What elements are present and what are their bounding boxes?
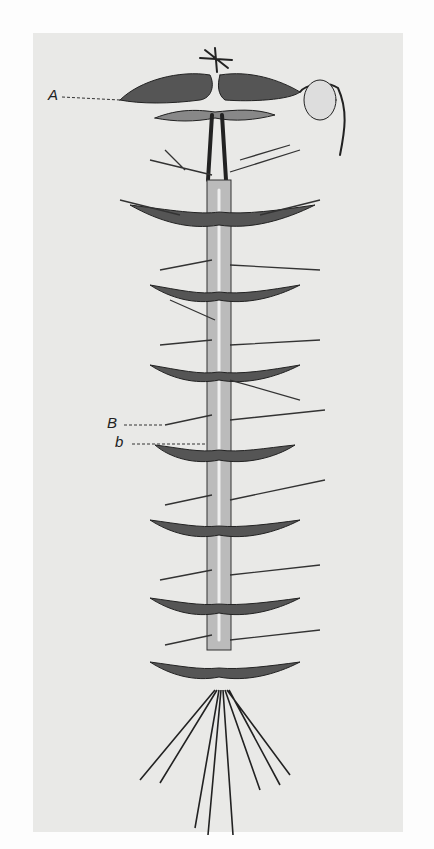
caudal-filaments	[140, 690, 290, 835]
label-leaders	[62, 97, 207, 444]
cerebral-ganglion-right	[218, 74, 300, 101]
label-a: A	[48, 86, 58, 103]
eye-spot-cluster	[304, 80, 336, 120]
nervous-system-illustration	[0, 0, 434, 849]
label-b-upper: B	[107, 414, 117, 431]
label-b-lower: b	[115, 433, 123, 450]
cerebral-ganglion-left	[120, 74, 212, 103]
